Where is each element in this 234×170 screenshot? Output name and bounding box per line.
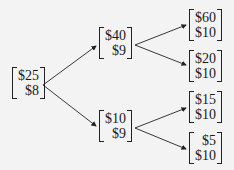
node-value-bottom: $10 bbox=[195, 148, 216, 163]
edge-root-down bbox=[43, 85, 96, 126]
node-value-top: $20 bbox=[195, 51, 216, 66]
node-value-bottom: $10 bbox=[195, 107, 216, 122]
node-value-top: $5 bbox=[202, 133, 216, 148]
right-bracket bbox=[217, 132, 222, 164]
node-value-bottom: $8 bbox=[25, 83, 39, 98]
edge-down-leaf3 bbox=[135, 108, 186, 128]
node-value-top: $15 bbox=[195, 92, 216, 107]
node-up: $40 $9 bbox=[99, 27, 132, 59]
node-leaf-2: $20 $10 bbox=[189, 50, 222, 82]
edge-down-leaf4 bbox=[135, 128, 186, 149]
right-bracket bbox=[217, 91, 222, 123]
right-bracket bbox=[217, 50, 222, 82]
right-bracket bbox=[217, 9, 222, 41]
node-value-bottom: $10 bbox=[195, 25, 216, 40]
node-leaf-3: $15 $10 bbox=[189, 91, 222, 123]
node-value-top: $25 bbox=[18, 68, 39, 83]
node-value-top: $40 bbox=[105, 28, 126, 43]
node-value-top: $10 bbox=[105, 111, 126, 126]
edge-root-up bbox=[43, 46, 96, 85]
right-bracket bbox=[127, 110, 132, 142]
node-leaf-4: $5 $10 bbox=[189, 132, 222, 164]
edge-up-leaf2 bbox=[135, 45, 186, 65]
node-leaf-1: $60 $10 bbox=[189, 9, 222, 41]
node-value-bottom: $10 bbox=[195, 66, 216, 81]
edge-up-leaf1 bbox=[135, 25, 186, 45]
right-bracket bbox=[40, 67, 45, 99]
node-down: $10 $9 bbox=[99, 110, 132, 142]
node-value-bottom: $9 bbox=[112, 126, 126, 141]
node-value-top: $60 bbox=[195, 10, 216, 25]
node-root: $25 $8 bbox=[12, 67, 45, 99]
node-value-bottom: $9 bbox=[112, 43, 126, 58]
right-bracket bbox=[127, 27, 132, 59]
